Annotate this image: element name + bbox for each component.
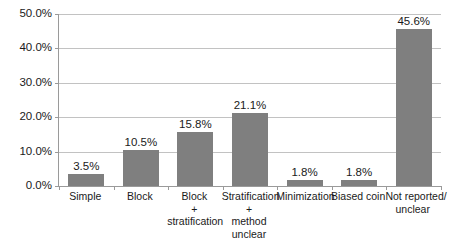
category-label-line: Biased coin [331,190,386,203]
category-label-line: + [167,203,222,216]
category-label-line: Minimization [276,190,331,203]
category-label-line: unclear [385,203,440,216]
y-axis-tick-label: 0.0% [6,180,52,192]
category-label-line: unclear [222,228,277,241]
bar-chart: 0.0%10.0%20.0%30.0%40.0%50.0% 3.5%10.5%1… [0,0,454,252]
bar-value-label: 1.8% [346,166,372,178]
bar-value-label: 3.5% [73,160,99,172]
x-axis-category-label: Stratification+methodunclear [222,190,277,240]
bar[interactable] [287,180,323,186]
category-label-line: + [222,203,277,216]
category-label-line: Stratification [222,190,277,203]
bar-value-label: 21.1% [234,99,267,111]
bar[interactable] [123,150,159,186]
category-label-line: Block [113,190,168,203]
gridline [59,186,441,187]
x-axis-category-label: Block+stratification [167,190,222,228]
x-axis-category-label: Block [113,190,168,203]
category-label-line: Not reported/ [385,190,440,203]
x-axis-category-labels: SimpleBlockBlock+stratificationStratific… [58,190,440,252]
category-label-line: stratification [167,215,222,228]
bar-slot: 45.6% [386,14,441,186]
x-axis-category-label: Minimization [276,190,331,203]
x-axis-category-label: Not reported/unclear [385,190,440,215]
category-label-line: Simple [58,190,113,203]
bar-slot: 15.8% [168,14,223,186]
bars-container: 3.5%10.5%15.8%21.1%1.8%1.8%45.6% [59,14,441,186]
bar-value-label: 15.8% [179,118,212,130]
bar-slot: 1.8% [277,14,332,186]
y-axis-tick-label: 10.0% [6,146,52,158]
bar-value-label: 1.8% [291,166,317,178]
bar[interactable] [396,29,432,186]
y-axis-tick-label: 50.0% [6,8,52,20]
bar-slot: 10.5% [114,14,169,186]
bar[interactable] [341,180,377,186]
bar-slot: 1.8% [332,14,387,186]
y-axis-tick-label: 20.0% [6,111,52,123]
category-label-line: method [222,215,277,228]
y-axis-tick-label: 30.0% [6,77,52,89]
y-axis-tick-label: 40.0% [6,42,52,54]
bar-value-label: 45.6% [397,15,430,27]
x-axis-category-label: Simple [58,190,113,203]
bar[interactable] [68,174,104,186]
bar-slot: 3.5% [59,14,114,186]
x-axis-category-label: Biased coin [331,190,386,203]
bar-slot: 21.1% [223,14,278,186]
category-label-line: Block [167,190,222,203]
bar[interactable] [177,132,213,186]
plot-area: 3.5%10.5%15.8%21.1%1.8%1.8%45.6% [58,14,440,186]
bar[interactable] [232,113,268,186]
bar-value-label: 10.5% [125,136,158,148]
